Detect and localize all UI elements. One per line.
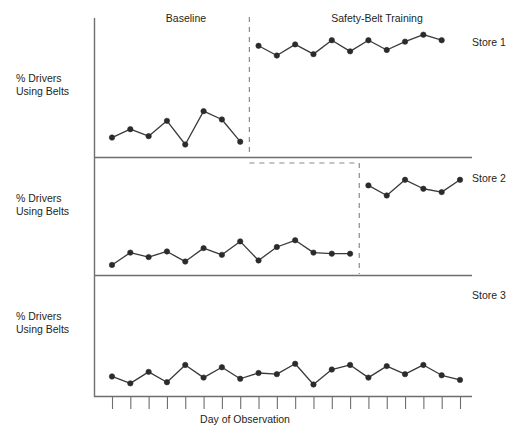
data-point bbox=[201, 108, 206, 113]
data-point bbox=[402, 371, 407, 376]
data-point bbox=[274, 53, 279, 58]
chart-canvas bbox=[0, 0, 525, 442]
series-label-store-1: Store 1 bbox=[472, 36, 506, 49]
data-point bbox=[421, 186, 426, 191]
data-point bbox=[457, 377, 462, 382]
data-panel-store-2 bbox=[109, 177, 462, 268]
data-point bbox=[164, 380, 169, 385]
phase-change-line-store-2 bbox=[249, 163, 359, 274]
data-point bbox=[292, 238, 297, 243]
data-point bbox=[183, 142, 188, 147]
data-point bbox=[439, 373, 444, 378]
data-point bbox=[256, 258, 261, 263]
data-point bbox=[366, 183, 371, 188]
data-point bbox=[128, 250, 133, 255]
data-point bbox=[311, 382, 316, 387]
data-point bbox=[366, 38, 371, 43]
data-point bbox=[311, 51, 316, 56]
data-point bbox=[146, 369, 151, 374]
data-point bbox=[274, 371, 279, 376]
data-point bbox=[146, 133, 151, 138]
data-point bbox=[384, 47, 389, 52]
data-point bbox=[347, 251, 352, 256]
data-point bbox=[274, 244, 279, 249]
data-point bbox=[329, 38, 334, 43]
data-point bbox=[311, 250, 316, 255]
data-point bbox=[384, 363, 389, 368]
data-point bbox=[183, 259, 188, 264]
data-point bbox=[109, 135, 114, 140]
series-label-store-3: Store 3 bbox=[472, 289, 506, 302]
data-point bbox=[402, 39, 407, 44]
data-point bbox=[439, 189, 444, 194]
y-axis-label-store-1: % Drivers Using Belts bbox=[16, 72, 90, 98]
data-point bbox=[366, 375, 371, 380]
data-panel-store-1 bbox=[109, 32, 444, 147]
x-axis-label: Day of Observation bbox=[0, 413, 490, 426]
phase-label-baseline: Baseline bbox=[131, 12, 241, 25]
data-point bbox=[457, 177, 462, 182]
data-point bbox=[219, 365, 224, 370]
data-point bbox=[347, 49, 352, 54]
data-point bbox=[128, 127, 133, 132]
data-panel-store-3 bbox=[109, 361, 462, 387]
data-point bbox=[292, 361, 297, 366]
data-point bbox=[402, 177, 407, 182]
data-point bbox=[238, 239, 243, 244]
data-point bbox=[128, 381, 133, 386]
data-point bbox=[219, 117, 224, 122]
series-label-store-2: Store 2 bbox=[472, 172, 506, 185]
data-point bbox=[201, 375, 206, 380]
data-point bbox=[164, 249, 169, 254]
data-point bbox=[238, 139, 243, 144]
data-point bbox=[238, 376, 243, 381]
data-point bbox=[421, 32, 426, 37]
data-point bbox=[109, 262, 114, 267]
y-axis-label-store-2: % Drivers Using Belts bbox=[16, 192, 90, 218]
data-point bbox=[292, 42, 297, 47]
data-point bbox=[109, 374, 114, 379]
data-point bbox=[164, 118, 169, 123]
data-point bbox=[256, 370, 261, 375]
data-point bbox=[421, 362, 426, 367]
y-axis-label-store-3: % Drivers Using Belts bbox=[16, 310, 90, 336]
data-point bbox=[146, 254, 151, 259]
data-point bbox=[439, 38, 444, 43]
phase-label-safety-belt-training: Safety-Belt Training bbox=[302, 12, 452, 25]
data-point bbox=[183, 362, 188, 367]
data-point bbox=[329, 367, 334, 372]
data-point bbox=[256, 43, 261, 48]
multiple-baseline-figure: Baseline Safety-Belt Training Store 1 St… bbox=[0, 0, 525, 442]
data-point bbox=[347, 362, 352, 367]
data-point bbox=[329, 251, 334, 256]
data-point bbox=[384, 193, 389, 198]
data-point bbox=[201, 245, 206, 250]
data-point bbox=[219, 252, 224, 257]
data-line-training bbox=[368, 180, 460, 196]
